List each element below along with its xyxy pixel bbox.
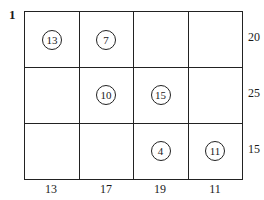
grid-cell: 11 [188,123,242,179]
row-capacity: 25 [248,86,260,101]
row-capacity: 15 [248,142,260,157]
figure-label: 1 [9,7,16,23]
grid-cell: 7 [79,12,133,67]
grid-cell: 4 [133,123,188,179]
allocation-circle: 4 [151,141,171,161]
allocation-grid: 13 7 10 15 4 11 [24,11,243,180]
allocation-circle: 11 [205,141,225,161]
allocation-circle: 10 [96,85,116,105]
allocation-circle: 13 [42,30,62,50]
row-capacity: 20 [248,30,260,45]
allocation-circle: 15 [151,85,171,105]
col-capacity: 13 [31,182,71,197]
col-capacity: 19 [140,182,180,197]
grid-cell: 10 [79,67,133,123]
allocation-circle: 7 [96,30,116,50]
grid-cell: 15 [133,67,188,123]
grid-cell: 13 [25,12,79,67]
col-capacity: 17 [86,182,126,197]
col-capacity: 11 [195,182,235,197]
